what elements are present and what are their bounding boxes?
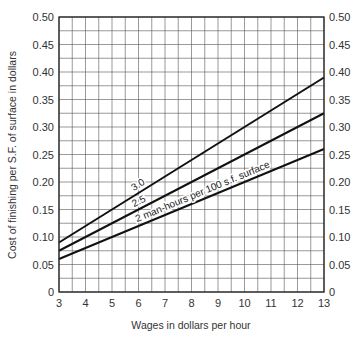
x-tick-label: 9 bbox=[215, 297, 221, 309]
y-tick-label-right: 0.40 bbox=[329, 66, 350, 78]
y-tick-label-right: 0.15 bbox=[329, 204, 350, 216]
y-tick-label: 0.30 bbox=[33, 121, 54, 133]
x-tick-label: 12 bbox=[291, 297, 303, 309]
y-axis-right-ticks: 00.050.100.150.200.250.300.350.400.450.5… bbox=[329, 11, 350, 298]
x-tick-label: 5 bbox=[109, 297, 115, 309]
x-axis-ticks: 345678910111213 bbox=[56, 297, 330, 309]
x-tick-label: 4 bbox=[82, 297, 88, 309]
y-tick-label: 0.25 bbox=[33, 149, 54, 161]
y-tick-label: 0.40 bbox=[33, 66, 54, 78]
x-tick-label: 3 bbox=[56, 297, 62, 309]
y-tick-label-right: 0.30 bbox=[329, 121, 350, 133]
y-tick-label-right: 0.05 bbox=[329, 259, 350, 271]
y-axis-label: Cost of finishing per S.F. of surface in… bbox=[6, 51, 18, 259]
y-tick-label: 0.05 bbox=[33, 259, 54, 271]
chart: 00.050.100.150.200.250.300.350.400.450.5… bbox=[0, 0, 359, 340]
y-axis-left-ticks: 00.050.100.150.200.250.300.350.400.450.5… bbox=[33, 11, 54, 298]
x-tick-label: 13 bbox=[318, 297, 330, 309]
x-tick-label: 7 bbox=[162, 297, 168, 309]
y-tick-label: 0.50 bbox=[33, 11, 54, 23]
x-axis-label: Wages in dollars per hour bbox=[131, 319, 251, 331]
x-tick-label: 11 bbox=[265, 297, 276, 309]
y-tick-label-right: 0.35 bbox=[329, 94, 350, 106]
x-tick-label: 10 bbox=[238, 297, 250, 309]
grid bbox=[59, 17, 324, 292]
y-tick-label: 0.10 bbox=[33, 231, 54, 243]
y-tick-label: 0.35 bbox=[33, 94, 54, 106]
y-tick-label: 0.20 bbox=[33, 176, 54, 188]
y-tick-label-right: 0.50 bbox=[329, 11, 350, 23]
y-tick-label: 0.45 bbox=[33, 39, 54, 51]
y-tick-label-right: 0.45 bbox=[329, 39, 350, 51]
x-tick-label: 6 bbox=[135, 297, 141, 309]
y-tick-label: 0 bbox=[48, 286, 54, 298]
y-tick-label-right: 0.10 bbox=[329, 231, 350, 243]
y-tick-label: 0.15 bbox=[33, 204, 54, 216]
y-tick-label-right: 0.25 bbox=[329, 149, 350, 161]
x-tick-label: 8 bbox=[188, 297, 194, 309]
y-tick-label-right: 0.20 bbox=[329, 176, 350, 188]
